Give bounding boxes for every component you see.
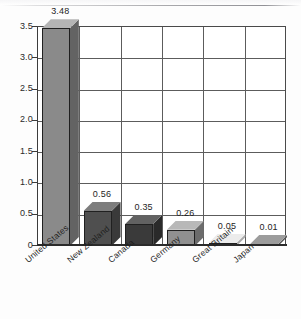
y-tick-label: 1.0: [3, 178, 33, 187]
y-tick-label: 2.5: [3, 84, 33, 93]
bar-top-face: [250, 235, 287, 244]
y-tick-label: 3.5: [3, 22, 33, 31]
y-tick-label: 2.0: [3, 115, 33, 124]
y-tick-label: 0: [3, 241, 33, 250]
bar-front-face: [42, 28, 70, 246]
y-axis: 3.5 3.0 2.5 2.0 1.5 1.0 0.5 0: [0, 0, 33, 319]
bar-value-label: 0.56: [77, 190, 128, 199]
scan-line: [0, 5, 301, 6]
bar-value-label: 0.01: [243, 223, 294, 232]
bar-value-label: 3.48: [35, 7, 86, 16]
y-tick-label: 0.5: [3, 209, 33, 218]
bar-chart: 3.5 3.0 2.5 2.0 1.5 1.0 0.5 0 United Sta…: [0, 0, 301, 319]
bar-value-label: 0.26: [160, 209, 211, 218]
bar-united-states[interactable]: [42, 19, 79, 246]
bar-side-face: [70, 19, 79, 246]
y-tick-label: 3.0: [3, 53, 33, 62]
y-tick-label: 1.5: [3, 147, 33, 156]
